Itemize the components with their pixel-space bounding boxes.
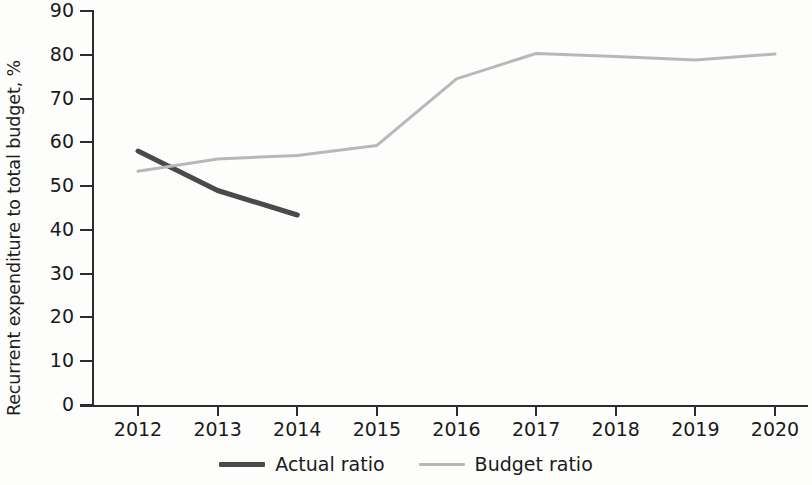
y-tick-mark bbox=[80, 360, 92, 362]
series-lines bbox=[92, 12, 806, 405]
y-tick-label: 90 bbox=[18, 1, 74, 20]
legend-label: Actual ratio bbox=[275, 455, 384, 474]
x-tick-label: 2013 bbox=[178, 420, 258, 439]
x-tick-mark bbox=[137, 405, 139, 416]
x-tick-mark bbox=[774, 405, 776, 416]
chart-legend: Actual ratioBudget ratio bbox=[0, 455, 812, 474]
x-tick-mark bbox=[615, 405, 617, 416]
y-tick-label: 70 bbox=[18, 89, 74, 108]
y-tick-mark bbox=[80, 404, 92, 406]
y-tick-mark bbox=[80, 98, 92, 100]
y-tick-mark bbox=[80, 141, 92, 143]
x-tick-mark bbox=[535, 405, 537, 416]
y-tick-label: 80 bbox=[18, 45, 74, 64]
x-tick-label: 2020 bbox=[735, 420, 812, 439]
x-tick-mark bbox=[456, 405, 458, 416]
series-line-actual-ratio bbox=[138, 151, 297, 215]
y-tick-mark bbox=[80, 316, 92, 318]
series-line-budget-ratio bbox=[138, 53, 775, 171]
legend-item[interactable]: Budget ratio bbox=[419, 455, 593, 474]
y-tick-mark bbox=[80, 54, 92, 56]
legend-swatch-icon bbox=[219, 462, 265, 467]
x-tick-label: 2018 bbox=[576, 420, 656, 439]
legend-swatch-icon bbox=[419, 463, 465, 466]
x-tick-label: 2012 bbox=[98, 420, 178, 439]
legend-item[interactable]: Actual ratio bbox=[219, 455, 384, 474]
x-tick-label: 2017 bbox=[496, 420, 576, 439]
y-tick-label: 30 bbox=[18, 264, 74, 283]
x-tick-label: 2016 bbox=[417, 420, 497, 439]
plot-area bbox=[92, 12, 806, 405]
y-tick-label: 40 bbox=[18, 220, 74, 239]
legend-label: Budget ratio bbox=[475, 455, 593, 474]
x-tick-mark bbox=[296, 405, 298, 416]
x-tick-label: 2015 bbox=[337, 420, 417, 439]
y-tick-mark bbox=[80, 10, 92, 12]
y-tick-label: 20 bbox=[18, 307, 74, 326]
line-chart-figure: Recurrent expenditure to total budget, %… bbox=[0, 0, 812, 485]
y-tick-mark bbox=[80, 229, 92, 231]
x-tick-mark bbox=[376, 405, 378, 416]
x-tick-mark bbox=[217, 405, 219, 416]
y-tick-label: 10 bbox=[18, 351, 74, 370]
x-tick-mark bbox=[694, 405, 696, 416]
x-axis-line bbox=[80, 405, 808, 407]
y-tick-mark bbox=[80, 273, 92, 275]
y-tick-label: 60 bbox=[18, 132, 74, 151]
y-tick-mark bbox=[80, 185, 92, 187]
y-tick-label: 50 bbox=[18, 176, 74, 195]
y-tick-label: 0 bbox=[18, 395, 74, 414]
x-tick-label: 2019 bbox=[655, 420, 735, 439]
x-tick-label: 2014 bbox=[257, 420, 337, 439]
